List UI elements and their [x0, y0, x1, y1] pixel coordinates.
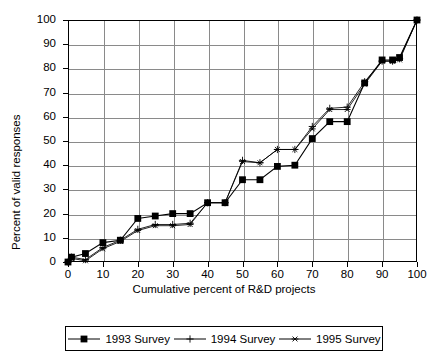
x-tick-mark [68, 262, 69, 267]
legend-marker-asterisk-icon [278, 333, 312, 345]
y-tick-label: 70 [30, 86, 56, 98]
y-tick-label: 60 [30, 110, 56, 122]
gridline-horizontal [69, 190, 416, 191]
x-tick-label: 90 [367, 268, 397, 280]
x-tick-label: 10 [88, 268, 118, 280]
gridline-horizontal [69, 215, 416, 216]
x-tick-mark [312, 262, 313, 267]
data-point-filled-square [81, 335, 88, 342]
gridline-horizontal [69, 142, 416, 143]
gridline-vertical [313, 21, 314, 261]
y-tick-mark [63, 238, 68, 239]
y-tick-mark [63, 20, 68, 21]
x-tick-label: 20 [123, 268, 153, 280]
gridline-horizontal [69, 69, 416, 70]
gridline-horizontal [69, 45, 416, 46]
x-tick-mark [243, 262, 244, 267]
x-tick-mark [417, 262, 418, 267]
data-point-asterisk [292, 336, 299, 341]
gridline-vertical [139, 21, 140, 261]
y-tick-label: 20 [30, 207, 56, 219]
gridline-vertical [244, 21, 245, 261]
x-axis-label: Cumulative percent of R&D projects [0, 283, 448, 295]
y-tick-mark [63, 165, 68, 166]
x-tick-label: 0 [53, 268, 83, 280]
plot-area [68, 20, 417, 262]
x-tick-label: 70 [297, 268, 327, 280]
x-tick-label: 30 [158, 268, 188, 280]
x-tick-mark [382, 262, 383, 267]
y-tick-label: 100 [30, 13, 56, 25]
y-tick-mark [63, 189, 68, 190]
y-tick-label: 30 [30, 182, 56, 194]
chart-legend: 1993 Survey1994 Survey1995 Survey [65, 326, 383, 351]
legend-item: 1995 Survey [278, 333, 381, 345]
y-tick-label: 80 [30, 61, 56, 73]
y-tick-label: 0 [30, 255, 56, 267]
x-tick-label: 60 [262, 268, 292, 280]
legend-marker-filled-square-icon [67, 333, 101, 345]
chart-figure: Percent of valid responses Cumulative pe… [0, 0, 448, 364]
gridline-horizontal [69, 94, 416, 95]
legend-label: 1993 Survey [105, 333, 170, 345]
gridline-vertical [348, 21, 349, 261]
legend-label: 1995 Survey [316, 333, 381, 345]
x-tick-label: 80 [332, 268, 362, 280]
x-tick-mark [277, 262, 278, 267]
x-tick-label: 100 [402, 268, 432, 280]
y-axis-label: Percent of valid responses [10, 114, 22, 250]
x-tick-mark [173, 262, 174, 267]
y-tick-mark [63, 141, 68, 142]
legend-label: 1994 Survey [211, 333, 276, 345]
x-tick-label: 40 [193, 268, 223, 280]
y-tick-mark [63, 214, 68, 215]
gridline-vertical [174, 21, 175, 261]
legend-marker-plus-icon [173, 333, 207, 345]
y-tick-mark [63, 44, 68, 45]
y-tick-mark [63, 93, 68, 94]
y-tick-label: 90 [30, 37, 56, 49]
x-tick-mark [138, 262, 139, 267]
legend-item: 1994 Survey [173, 333, 276, 345]
y-tick-mark [63, 68, 68, 69]
gridline-vertical [278, 21, 279, 261]
y-tick-label: 10 [30, 231, 56, 243]
y-tick-label: 50 [30, 134, 56, 146]
gridline-vertical [383, 21, 384, 261]
x-tick-mark [208, 262, 209, 267]
x-tick-mark [347, 262, 348, 267]
x-tick-mark [103, 262, 104, 267]
y-tick-label: 40 [30, 158, 56, 170]
gridline-vertical [104, 21, 105, 261]
gridline-horizontal [69, 239, 416, 240]
gridline-vertical [209, 21, 210, 261]
y-tick-mark [63, 117, 68, 118]
gridline-horizontal [69, 118, 416, 119]
data-point-plus [186, 335, 193, 342]
legend-item: 1993 Survey [67, 333, 170, 345]
gridline-horizontal [69, 166, 416, 167]
x-tick-label: 50 [228, 268, 258, 280]
